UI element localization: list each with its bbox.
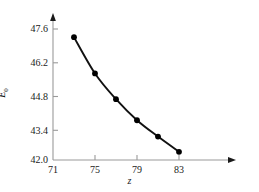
x-tick-label: 75 [83, 165, 107, 175]
data-series-markers [71, 34, 182, 154]
y-axis-title-subscript: 0 [2, 88, 10, 92]
y-tick-label: 42.0 [16, 155, 48, 165]
y-tick-label: 44.8 [16, 92, 48, 102]
data-point-marker [113, 96, 119, 102]
y-axis-arrow-icon [50, 13, 56, 21]
y-axis-ticks [53, 29, 58, 130]
data-point-marker [176, 149, 182, 155]
chart-figure: 47.6 46.2 44.8 43.4 42.0 71 75 79 83 E0 … [0, 0, 259, 192]
data-series-line [74, 37, 179, 152]
y-tick-label: 47.6 [16, 24, 48, 34]
y-axis-title: E0 [2, 82, 18, 104]
x-tick-label: 79 [125, 165, 149, 175]
data-point-marker [155, 134, 161, 140]
data-point-marker [134, 117, 140, 123]
x-axis-arrow-icon [228, 157, 236, 163]
x-axis-title: z [0, 176, 259, 186]
data-point-marker [92, 71, 98, 77]
x-axis-ticks [95, 155, 179, 160]
y-tick-label: 46.2 [16, 58, 48, 68]
x-tick-label: 83 [167, 165, 191, 175]
data-point-marker [71, 34, 77, 40]
y-tick-label: 43.4 [16, 126, 48, 136]
x-tick-label: 71 [41, 165, 65, 175]
y-axis-title-base: E [0, 92, 7, 98]
